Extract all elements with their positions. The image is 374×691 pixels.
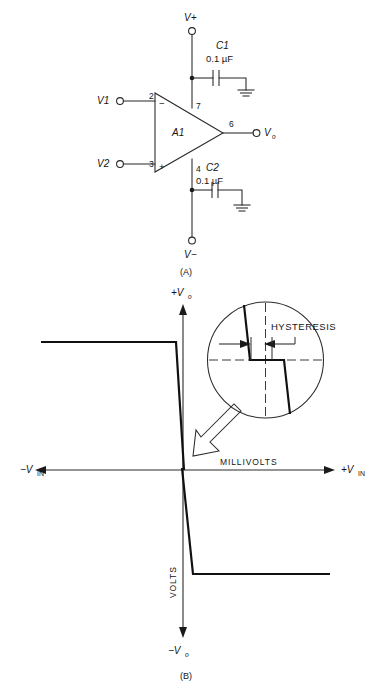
figure-root: V+ C1 0.1 µF A1 − + V1 V2 (0, 0, 374, 691)
detail-curve-right-transition (250, 360, 290, 414)
panel-b-graph: −V IN +V IN +V o −V o MILLIVOLTS VOLTS (20, 287, 365, 681)
y-axis-positive-sublabel: o (188, 293, 192, 300)
c2-ref-label: C2 (206, 162, 219, 173)
x-axis-negative-label: −V (20, 464, 34, 475)
x-axis-positive-sublabel: IN (358, 470, 365, 477)
callout-arrow (193, 404, 241, 456)
inverting-input-sign: − (159, 98, 165, 109)
output-label: V (264, 127, 272, 138)
opamp-designator: A1 (171, 127, 184, 138)
x-axis-arrow-right (324, 466, 335, 474)
y-axis-arrow-up (179, 304, 187, 315)
y-axis-negative-label: −V (168, 645, 182, 656)
detail-curve-left-transition (244, 305, 265, 360)
panel-a-caption: (A) (180, 267, 192, 277)
opamp-triangle-body[interactable] (155, 93, 223, 172)
v-minus-terminal[interactable] (189, 237, 196, 244)
output-terminal[interactable] (253, 130, 260, 137)
transfer-curve-upper (41, 342, 184, 470)
x-axis-negative-sublabel: IN (37, 470, 44, 477)
x-axis-unit-label: MILLIVOLTS (220, 457, 278, 467)
c1-value-label: 0.1 µF (206, 53, 233, 64)
detail-callout-group: HYSTERESIS (208, 302, 337, 418)
transfer-curve-lower (182, 468, 330, 574)
c2-right-wire (218, 190, 242, 205)
v2-label: V2 (97, 158, 110, 169)
output-label-sub: o (272, 133, 276, 140)
figure-svg: V+ C1 0.1 µF A1 − + V1 V2 (0, 0, 374, 691)
noninverting-input-sign: + (159, 161, 165, 172)
c1-ref-label: C1 (216, 40, 229, 51)
hysteresis-label: HYSTERESIS (271, 321, 336, 332)
v-plus-terminal[interactable] (189, 28, 196, 35)
v-minus-label: V− (184, 249, 197, 260)
c2-value-label: 0.1 µF (196, 175, 223, 186)
v-plus-label: V+ (184, 12, 197, 23)
y-axis-arrow-down (179, 627, 187, 638)
pin-number-3: 3 (149, 159, 154, 169)
v1-label: V1 (97, 95, 109, 106)
v1-terminal[interactable] (117, 98, 124, 105)
pin-number-4: 4 (196, 164, 201, 174)
panel-b-caption: (B) (180, 671, 192, 681)
x-axis-positive-label: +V (341, 464, 355, 475)
pin-number-2: 2 (149, 91, 154, 101)
y-axis-negative-sublabel: o (185, 651, 189, 658)
y-axis-unit-label: VOLTS (168, 566, 178, 598)
v2-terminal[interactable] (117, 161, 124, 168)
panel-a-schematic: V+ C1 0.1 µF A1 − + V1 V2 (97, 12, 276, 277)
y-axis-positive-label: +V (171, 287, 185, 298)
pin-number-7: 7 (196, 101, 201, 111)
c1-right-wire (219, 78, 246, 90)
pin-number-6: 6 (229, 119, 234, 129)
